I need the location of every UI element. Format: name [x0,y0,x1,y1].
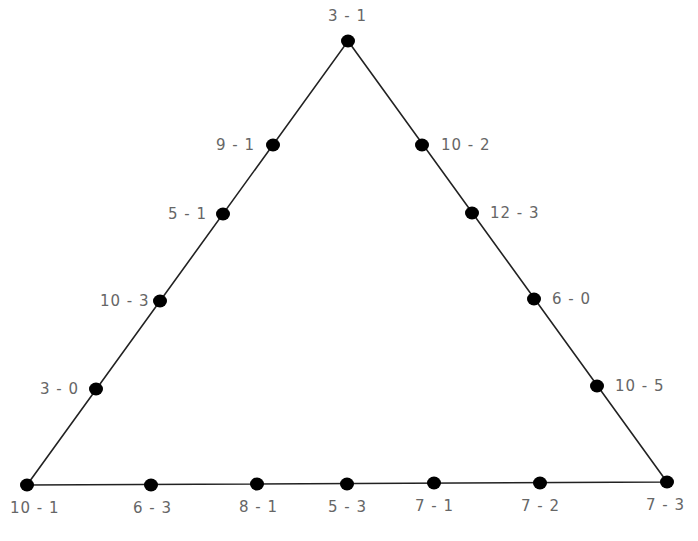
node-label: 10 - 5 [615,378,665,394]
node-label: 7 - 1 [415,498,454,514]
node-dot [590,380,604,393]
node-label: 6 - 0 [552,291,591,307]
node-dot [660,476,674,489]
node-label: 5 - 1 [168,206,207,222]
node-dots [20,35,674,492]
node-label: 7 - 3 [646,497,685,513]
node-dot [427,477,441,490]
node-label: 8 - 1 [239,499,278,515]
node-dot [144,479,158,492]
node-label: 6 - 3 [133,500,172,516]
node-dot [266,139,280,152]
triangle-diagram [0,0,698,541]
node-dot [341,35,355,48]
node-dot [533,477,547,490]
node-label: 5 - 3 [328,499,367,515]
node-label: 12 - 3 [490,205,540,221]
node-label: 9 - 1 [216,137,255,153]
node-dot [216,208,230,221]
node-dot [250,478,264,491]
node-label: 3 - 0 [40,381,79,397]
node-dot [89,383,103,396]
node-label: 7 - 2 [521,498,560,514]
node-label: 10 - 2 [441,137,491,153]
node-dot [20,479,34,492]
node-dot [415,139,429,152]
node-label: 10 - 3 [100,293,150,309]
triangle-outline [27,41,667,485]
node-dot [153,295,167,308]
node-dot [340,478,354,491]
node-dot [465,207,479,220]
node-label: 3 - 1 [328,8,367,24]
node-dot [527,293,541,306]
node-label: 10 - 1 [10,500,60,516]
